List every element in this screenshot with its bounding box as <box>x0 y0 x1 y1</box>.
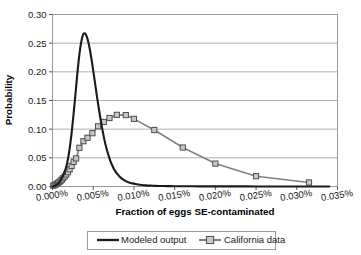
data-point-marker <box>180 145 185 150</box>
data-point-marker <box>213 161 218 166</box>
y-tick-label: 0.15 <box>28 95 47 106</box>
x-axis-title: Fraction of eggs SE-contaminated <box>116 206 275 217</box>
legend-label-california-data: California data <box>224 234 286 245</box>
chart-legend: Modeled outputCalifornia data <box>88 232 286 250</box>
probability-distribution-chart: 0.000.050.100.150.200.250.30 0.000%0.005… <box>0 0 361 255</box>
data-point-marker <box>74 156 79 161</box>
y-tick-label: 0.20 <box>28 66 47 77</box>
y-axis-title: Probability <box>3 74 14 125</box>
data-point-marker <box>96 124 101 129</box>
legend-swatch-california-data-marker <box>206 236 213 243</box>
data-point-marker <box>131 116 136 121</box>
data-point-marker <box>90 131 95 136</box>
data-point-marker <box>152 127 157 132</box>
data-point-marker <box>107 115 112 120</box>
y-tick-label: 0.05 <box>28 152 47 163</box>
chart-figure: 0.000.050.100.150.200.250.30 0.000%0.005… <box>0 0 361 255</box>
data-point-marker <box>253 174 258 179</box>
legend-label-modeled-output: Modeled output <box>121 234 187 245</box>
y-tick-label: 0.10 <box>28 124 47 135</box>
data-point-marker <box>114 112 119 117</box>
data-point-marker <box>77 145 82 150</box>
data-point-marker <box>123 113 128 118</box>
data-point-marker <box>306 180 311 185</box>
y-tick-label: 0.25 <box>28 38 47 49</box>
y-tick-label: 0.30 <box>28 9 47 20</box>
